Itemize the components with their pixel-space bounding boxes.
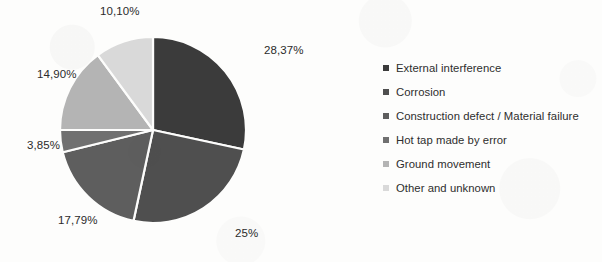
pie-slice-group — [60, 37, 246, 223]
legend-item-label: Hot tap made by error — [396, 134, 507, 146]
legend-item[interactable]: External interference — [383, 58, 601, 79]
legend-item[interactable]: Construction defect / Material failure — [383, 106, 601, 127]
pie-chart-svg — [0, 0, 380, 262]
legend-item[interactable]: Corrosion — [383, 82, 601, 103]
pie-data-label-external-interference: 28,37% — [264, 44, 304, 56]
legend-item-label: Other and unknown — [396, 182, 495, 194]
legend-item[interactable]: Hot tap made by error — [383, 130, 601, 151]
legend-item-label: Corrosion — [396, 86, 445, 98]
chart-legend: External interferenceCorrosionConstructi… — [383, 58, 601, 202]
pie-data-label-ground-movement: 14,90% — [37, 68, 77, 80]
legend-item-label: Construction defect / Material failure — [396, 110, 579, 122]
legend-item-label: Ground movement — [396, 158, 490, 170]
pie-data-label-other-unknown: 10,10% — [100, 5, 140, 17]
legend-swatch-icon — [383, 89, 389, 95]
pie-data-label-hot-tap: 3,85% — [27, 139, 60, 151]
pie-data-label-corrosion: 25% — [235, 227, 258, 239]
legend-swatch-icon — [383, 185, 389, 191]
legend-swatch-icon — [383, 65, 389, 71]
legend-swatch-icon — [383, 137, 389, 143]
legend-swatch-icon — [383, 113, 389, 119]
legend-item[interactable]: Other and unknown — [383, 178, 601, 199]
pie-chart: 28,37% 25% 17,79% 3,85% 14,90% 10,10% — [0, 0, 380, 262]
pie-data-label-construction-defect: 17,79% — [58, 214, 98, 226]
legend-item-label: External interference — [396, 62, 501, 74]
legend-item[interactable]: Ground movement — [383, 154, 601, 175]
legend-swatch-icon — [383, 161, 389, 167]
